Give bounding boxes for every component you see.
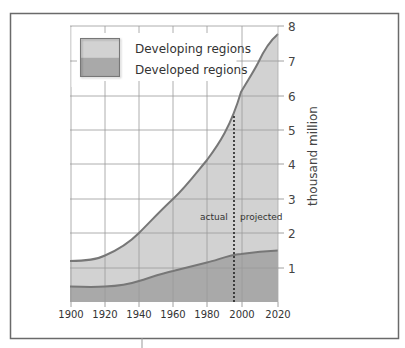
svg-text:6: 6 (288, 90, 296, 104)
svg-text:1980: 1980 (194, 309, 219, 320)
svg-text:2020: 2020 (265, 309, 290, 320)
svg-text:1900: 1900 (58, 309, 83, 320)
projected-label: projected (240, 212, 283, 222)
actual-label: actual (200, 212, 228, 222)
y-axis-ticks: 8 7 6 5 4 3 2 1 (288, 20, 296, 276)
legend-label-developing: Developing regions (135, 42, 251, 56)
svg-text:4: 4 (288, 158, 296, 172)
legend-swatch-developed (81, 58, 120, 77)
legend-label-developed: Developed regions (135, 63, 247, 77)
svg-text:5: 5 (288, 124, 296, 138)
svg-text:1920: 1920 (92, 309, 117, 320)
y-axis-title: thousand million (306, 106, 320, 206)
svg-text:1960: 1960 (160, 309, 185, 320)
chart: Developing regions Developed regions act… (0, 0, 405, 348)
legend-swatch-developing (81, 39, 120, 58)
svg-text:1940: 1940 (126, 309, 151, 320)
svg-text:3: 3 (288, 193, 296, 207)
svg-text:7: 7 (288, 55, 296, 69)
x-axis-ticks: 1900 1920 1940 1960 1980 2000 2020 (58, 309, 290, 320)
svg-text:1: 1 (288, 262, 296, 276)
svg-text:2000: 2000 (229, 309, 254, 320)
svg-text:2: 2 (288, 227, 296, 241)
svg-text:8: 8 (288, 20, 296, 34)
